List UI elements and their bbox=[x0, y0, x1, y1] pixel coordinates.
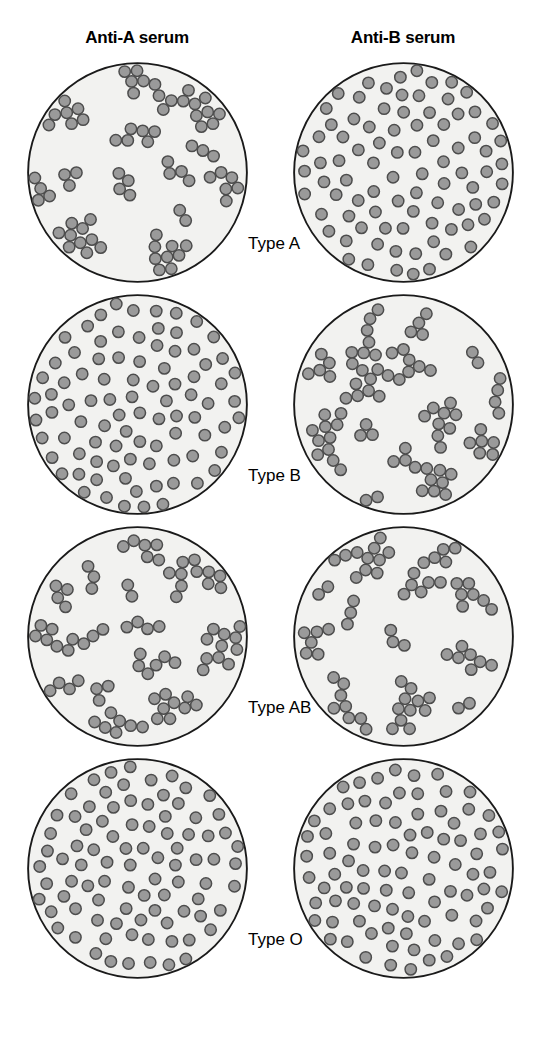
red-blood-cell bbox=[446, 77, 457, 88]
dish-agglutinated bbox=[27, 526, 248, 747]
red-blood-cell bbox=[381, 884, 392, 895]
red-blood-cell bbox=[364, 121, 375, 132]
red-blood-cell bbox=[371, 567, 382, 578]
red-blood-cell bbox=[449, 542, 460, 553]
red-blood-cell bbox=[463, 804, 474, 815]
red-blood-cell bbox=[133, 332, 144, 343]
red-blood-cell bbox=[333, 88, 344, 99]
red-blood-cell bbox=[82, 320, 93, 331]
red-blood-cell bbox=[440, 786, 451, 797]
red-blood-cell bbox=[348, 898, 359, 909]
red-blood-cell bbox=[60, 601, 71, 612]
red-blood-cell bbox=[199, 429, 210, 440]
red-blood-cell bbox=[446, 224, 457, 235]
red-blood-cell bbox=[381, 83, 392, 94]
dish-type-ab-anti-a bbox=[27, 526, 248, 747]
red-blood-cell bbox=[149, 693, 160, 704]
red-blood-cell bbox=[110, 440, 121, 451]
red-blood-cell bbox=[432, 197, 443, 208]
red-blood-cell bbox=[30, 630, 41, 641]
red-blood-cell bbox=[58, 891, 69, 902]
red-blood-cell bbox=[469, 106, 480, 117]
red-blood-cell bbox=[408, 206, 419, 217]
red-blood-cell bbox=[71, 840, 82, 851]
red-blood-cell bbox=[428, 485, 439, 496]
red-blood-cell bbox=[142, 551, 153, 562]
red-blood-cell bbox=[105, 956, 116, 967]
red-blood-cell bbox=[144, 458, 155, 469]
red-blood-cell bbox=[134, 436, 145, 447]
red-blood-cell bbox=[412, 788, 423, 799]
red-blood-cell bbox=[183, 829, 194, 840]
red-blood-cell bbox=[418, 557, 429, 568]
red-blood-cell bbox=[360, 419, 371, 430]
red-blood-cell bbox=[147, 381, 158, 392]
red-blood-cell bbox=[299, 165, 310, 176]
red-blood-cell bbox=[350, 817, 361, 828]
red-blood-cell bbox=[204, 171, 215, 182]
red-blood-cell bbox=[160, 689, 171, 700]
red-blood-cell bbox=[341, 882, 352, 893]
red-blood-cell bbox=[88, 571, 99, 582]
red-blood-cell bbox=[66, 875, 77, 886]
red-blood-cell bbox=[353, 144, 364, 155]
red-blood-cell bbox=[390, 817, 401, 828]
red-blood-cell bbox=[59, 432, 70, 443]
red-blood-cell bbox=[368, 157, 379, 168]
red-blood-cell bbox=[428, 852, 439, 863]
red-blood-cell bbox=[426, 217, 437, 228]
red-blood-cell bbox=[456, 589, 467, 600]
red-blood-cell bbox=[46, 389, 57, 400]
red-blood-cell bbox=[158, 104, 169, 115]
red-blood-cell bbox=[394, 374, 405, 385]
red-blood-cell bbox=[310, 897, 321, 908]
red-blood-cell bbox=[424, 107, 435, 118]
red-blood-cell bbox=[164, 168, 175, 179]
red-blood-cell bbox=[478, 883, 489, 894]
red-blood-cell bbox=[99, 722, 110, 733]
red-blood-cell bbox=[87, 630, 98, 641]
red-blood-cell bbox=[394, 787, 405, 798]
red-blood-cell bbox=[153, 554, 164, 565]
dish-type-b-anti-b bbox=[293, 294, 514, 515]
red-blood-cell bbox=[72, 103, 83, 114]
red-blood-cell bbox=[219, 422, 230, 433]
red-blood-cell bbox=[125, 761, 136, 772]
red-blood-cell bbox=[143, 934, 154, 945]
red-blood-cell bbox=[71, 167, 82, 178]
red-blood-cell bbox=[75, 237, 86, 248]
red-blood-cell bbox=[126, 819, 137, 830]
red-blood-cell bbox=[372, 364, 383, 375]
red-blood-cell bbox=[91, 456, 102, 467]
red-blood-cell bbox=[483, 810, 494, 821]
red-blood-cell bbox=[35, 620, 46, 631]
red-blood-cell bbox=[400, 443, 411, 454]
red-blood-cell bbox=[417, 485, 428, 496]
red-blood-cell bbox=[324, 848, 335, 859]
red-blood-cell bbox=[335, 408, 346, 419]
red-blood-cell bbox=[41, 878, 52, 889]
red-blood-cell bbox=[201, 653, 212, 664]
red-blood-cell bbox=[122, 579, 133, 590]
red-blood-cell bbox=[435, 805, 446, 816]
red-blood-cell bbox=[100, 787, 111, 798]
red-blood-cell bbox=[200, 359, 211, 370]
red-blood-cell bbox=[151, 480, 162, 491]
red-blood-cell bbox=[383, 547, 394, 558]
red-blood-cell bbox=[81, 247, 92, 258]
red-blood-cell bbox=[197, 145, 208, 156]
red-blood-cell bbox=[42, 845, 53, 856]
red-blood-cell bbox=[356, 222, 367, 233]
red-blood-cell bbox=[152, 852, 163, 863]
red-blood-cell bbox=[105, 767, 116, 778]
red-blood-cell bbox=[355, 430, 366, 441]
red-blood-cell bbox=[173, 798, 184, 809]
red-blood-cell bbox=[76, 859, 87, 870]
red-blood-cell bbox=[66, 118, 77, 129]
red-blood-cell bbox=[348, 838, 359, 849]
red-blood-cell bbox=[411, 65, 422, 76]
red-blood-cell bbox=[396, 676, 407, 687]
red-blood-cell bbox=[126, 591, 137, 602]
red-blood-cell bbox=[338, 678, 349, 689]
red-blood-cell bbox=[404, 829, 415, 840]
